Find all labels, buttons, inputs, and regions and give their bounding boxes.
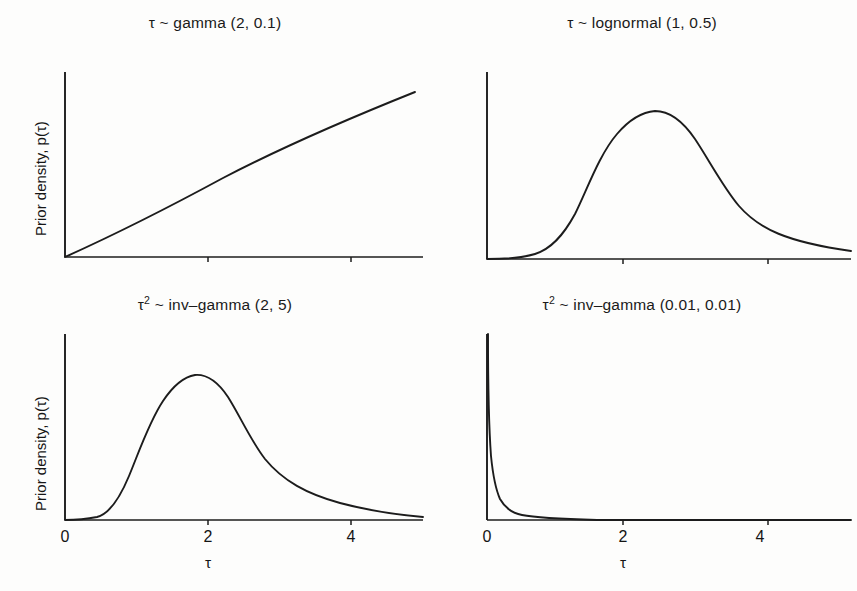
x-tick-label-2: 2 <box>190 528 226 546</box>
y-axis-label-inv-gamma-2-5: Prior density, p(τ) <box>32 396 49 511</box>
x-tick-label-4: 4 <box>742 528 778 546</box>
panel-inv-gamma-2-5: τ2 ~ inv–gamma (2, 5) Prior density, p(τ… <box>0 296 430 586</box>
panel-inv-gamma-001-001: τ2 ~ inv–gamma (0.01, 0.01) 0 2 4 τ <box>427 296 857 586</box>
panel-title-rest: ~ lognormal (1, 0.5) <box>573 14 716 31</box>
density-curve-inv-gamma-2-5 <box>65 375 423 520</box>
x-tick-label-0: 0 <box>47 528 83 546</box>
panel-title-inv-gamma-2-5: τ2 ~ inv–gamma (2, 5) <box>0 296 430 314</box>
panel-title-rest: ~ inv–gamma (0.01, 0.01) <box>555 296 741 313</box>
plot-area-inv-gamma-001-001 <box>477 324 857 539</box>
plot-area-lognormal <box>477 54 857 279</box>
plot-area-inv-gamma-2-5 <box>55 324 430 539</box>
density-curve-lognormal <box>487 111 851 259</box>
panel-title-inv-gamma-001-001: τ2 ~ inv–gamma (0.01, 0.01) <box>427 296 857 314</box>
density-curve-inv-gamma-001-001 <box>488 334 851 520</box>
panel-title-rest: ~ inv–gamma (2, 5) <box>150 296 292 313</box>
panel-title-gamma: τ ~ gamma (2, 0.1) <box>0 14 430 32</box>
y-axis-label-gamma: Prior density, p(τ) <box>32 121 49 236</box>
panel-title-rest: ~ gamma (2, 0.1) <box>155 14 281 31</box>
panel-gamma: τ ~ gamma (2, 0.1) Prior density, p(τ) <box>0 14 430 289</box>
x-tick-label-0: 0 <box>469 528 505 546</box>
x-tick-label-2: 2 <box>605 528 641 546</box>
x-axis-label-inv-gamma-2-5: τ <box>190 554 226 572</box>
x-axis-label-inv-gamma-001-001: τ <box>605 554 641 572</box>
panel-title-lognormal: τ ~ lognormal (1, 0.5) <box>427 14 857 32</box>
panel-lognormal: τ ~ lognormal (1, 0.5) <box>427 14 857 289</box>
prior-density-figure: τ ~ gamma (2, 0.1) Prior density, p(τ) τ… <box>0 0 857 591</box>
plot-area-gamma <box>55 54 430 279</box>
x-tick-label-4: 4 <box>333 528 369 546</box>
density-curve-gamma <box>65 92 415 257</box>
